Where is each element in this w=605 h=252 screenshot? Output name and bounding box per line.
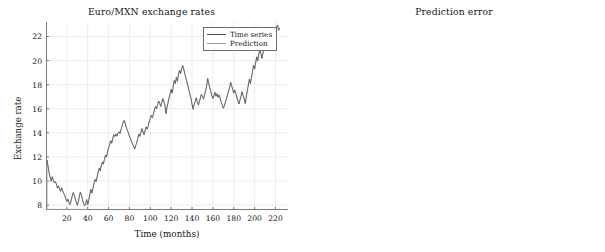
panel-title-left: Euro/MXN exchange rates bbox=[0, 6, 303, 17]
panel-title-right: Prediction error bbox=[303, 6, 605, 17]
x-tick-label: 220 bbox=[268, 214, 283, 223]
y-tick-label: 12 bbox=[26, 152, 42, 161]
legend-item[interactable]: Prediction bbox=[207, 39, 272, 48]
legend-line-swatch bbox=[207, 43, 226, 44]
y-tick-label: 10 bbox=[26, 177, 42, 186]
x-axis-label-left: Time (months) bbox=[46, 229, 288, 239]
panel-exchange-rates: Euro/MXN exchange rates Exchange rate Ti… bbox=[0, 0, 303, 252]
panel-prediction-error: Prediction error Error (Exchange rate) T… bbox=[303, 0, 605, 252]
x-tick-label: 180 bbox=[227, 214, 242, 223]
x-tick-label: 20 bbox=[62, 214, 72, 223]
legend-label: Time series bbox=[230, 30, 272, 39]
y-axis-label-left: Exchange rate bbox=[13, 97, 23, 160]
x-tick-label: 40 bbox=[83, 214, 93, 223]
y-tick-label: 16 bbox=[26, 104, 42, 113]
y-tick-label: 18 bbox=[26, 80, 42, 89]
legend-label: Prediction bbox=[230, 39, 268, 48]
y-tick-label: 22 bbox=[26, 32, 42, 41]
figure-two-panel-plot: Euro/MXN exchange rates Exchange rate Ti… bbox=[0, 0, 605, 252]
x-tick-label: 200 bbox=[247, 214, 262, 223]
y-tick-label: 14 bbox=[26, 128, 42, 137]
legend-line-swatch bbox=[207, 34, 226, 35]
y-tick-label: 8 bbox=[26, 201, 42, 210]
x-tick-label: 140 bbox=[185, 214, 200, 223]
x-tick-label: 120 bbox=[164, 214, 179, 223]
y-tick-label: 20 bbox=[26, 56, 42, 65]
x-tick-label: 80 bbox=[125, 214, 135, 223]
legend-left: Time seriesPrediction bbox=[203, 27, 277, 51]
x-tick-label: 100 bbox=[143, 214, 158, 223]
legend-item[interactable]: Time series bbox=[207, 30, 272, 39]
x-tick-label: 60 bbox=[104, 214, 114, 223]
x-tick-label: 160 bbox=[206, 214, 221, 223]
